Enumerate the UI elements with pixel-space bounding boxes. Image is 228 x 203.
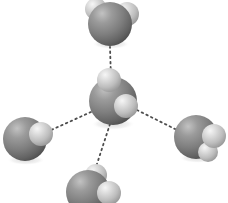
hydrogen-bonding-figure bbox=[0, 0, 228, 203]
oxygen-atom bbox=[88, 2, 132, 46]
hydrogen-atom bbox=[29, 122, 53, 146]
hydrogen-atom bbox=[97, 68, 121, 92]
hydrogen-atom bbox=[202, 124, 226, 148]
hydrogen-atom bbox=[114, 94, 138, 118]
molecule-canvas bbox=[0, 0, 228, 203]
